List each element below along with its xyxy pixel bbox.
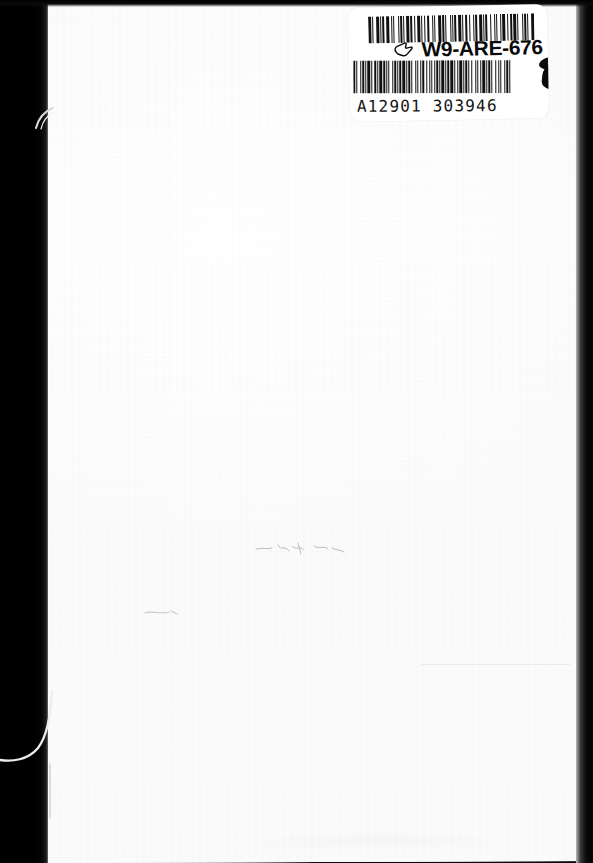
barcode-bar — [380, 16, 382, 43]
barcode-bar — [498, 60, 499, 93]
barcode-bar — [431, 60, 432, 93]
barcode-bar — [368, 17, 372, 44]
barcode-bar — [491, 60, 492, 93]
barcode-bar — [356, 61, 357, 94]
barcode-bar — [451, 60, 454, 93]
barcode-bar — [509, 60, 510, 93]
barcode-bar — [379, 60, 382, 93]
barcode-bar — [466, 60, 468, 93]
barcode-bar — [388, 60, 389, 93]
barcode-bar — [360, 61, 361, 94]
paper-sheet — [42, 0, 590, 863]
barcode-bar — [455, 60, 456, 93]
barcode-bar — [376, 16, 380, 43]
left-gutter-shadow — [0, 0, 48, 863]
label-code-text: W9-ARE-676 — [421, 35, 543, 61]
barcode-bar — [411, 60, 412, 93]
barcode-bar — [372, 16, 374, 43]
barcode-bar — [437, 60, 439, 93]
barcode-bar — [446, 60, 447, 93]
barcode-bar — [386, 60, 387, 93]
barcode-bar — [383, 60, 385, 93]
barcode-bar — [458, 60, 459, 93]
barcode-bar — [371, 60, 372, 93]
barcode-bar — [415, 60, 416, 93]
barcode-bar — [482, 60, 485, 93]
barcode-bar — [500, 60, 501, 93]
barcode-bar — [386, 16, 390, 43]
barcode-bar — [488, 60, 490, 93]
barcode-bar — [471, 60, 472, 93]
barcode-bar — [448, 60, 450, 93]
barcode-bar — [408, 60, 410, 93]
lower-barcode — [353, 60, 511, 93]
barcode-bar — [367, 60, 370, 93]
barcode-bar — [365, 61, 366, 94]
pointing-hand-icon — [393, 39, 419, 60]
barcode-bar — [475, 60, 476, 93]
scanned-page: W9-ARE-676 A12901 303946 — [0, 0, 593, 863]
barcode-bar — [399, 60, 401, 93]
label-number-text: A12901 303946 — [357, 96, 498, 116]
barcode-bar — [392, 60, 393, 93]
barcode-bar — [353, 61, 355, 94]
barcode-bar — [422, 60, 425, 93]
barcode-bar — [435, 60, 436, 93]
barcode-bar — [394, 60, 396, 93]
barcode-bar — [377, 60, 378, 93]
barcode-bar — [426, 60, 427, 93]
paper-grain — [42, 0, 590, 863]
barcode-bar — [506, 60, 508, 93]
barcode-bar — [495, 60, 496, 93]
barcode-bar — [442, 60, 445, 93]
barcode-bar — [417, 60, 418, 93]
barcode-bar — [440, 60, 441, 93]
barcode-bar — [397, 60, 398, 93]
barcode-bar — [464, 60, 465, 93]
barcode-bar — [486, 60, 487, 93]
barcode-label: W9-ARE-676 A12901 303946 — [348, 4, 549, 122]
barcode-bar — [460, 60, 463, 93]
barcode-bar — [406, 60, 407, 93]
barcode-bar — [477, 60, 478, 93]
right-edge-shadow — [576, 0, 593, 863]
barcode-bar — [468, 60, 469, 93]
barcode-bar — [504, 60, 505, 93]
barcode-bar — [402, 60, 405, 93]
barcode-bar — [420, 60, 421, 93]
barcode-bar — [362, 61, 364, 94]
barcode-bar — [382, 16, 385, 43]
barcode-bar — [480, 60, 481, 93]
barcode-bar — [429, 60, 430, 93]
barcode-label-inner: W9-ARE-676 A12901 303946 — [348, 4, 549, 122]
barcode-bar — [374, 60, 376, 93]
